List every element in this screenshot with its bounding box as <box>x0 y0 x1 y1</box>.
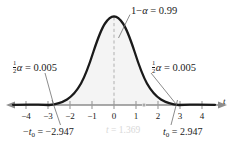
t-subscript: 0 <box>166 131 170 139</box>
right-tail-area-label: 1 2 α = 0.005 <box>152 60 196 74</box>
x-tick-label: 2 <box>151 111 165 121</box>
t-statistic-label: t = 1.369 <box>106 126 140 136</box>
one-half-fraction: 1 2 <box>152 60 155 74</box>
confidence-equals: = <box>150 5 156 16</box>
x-tick-label: 3 <box>173 111 187 121</box>
x-tick-label: 4 <box>195 111 209 121</box>
t-critical-negative-label: −t0 = −2.947 <box>23 127 74 139</box>
x-tick-label: −4 <box>19 111 33 121</box>
tcrit-pos-equals: = <box>172 126 178 137</box>
alpha-symbol: α <box>156 62 162 73</box>
right-alpha-value: 0.005 <box>172 62 196 73</box>
t-distribution-chart: 1−α = 0.99 1 2 α = 0.005 1 2 α = 0.005 −… <box>0 0 235 148</box>
left-tail-leader-line <box>45 73 54 104</box>
tstat-value: 1.369 <box>119 125 140 135</box>
confidence-value: 0.99 <box>159 5 177 16</box>
t-critical-positive-label: t0 = 2.947 <box>163 127 202 139</box>
tcrit-neg-equals: = <box>37 126 43 137</box>
left-tail-area-label: 1 2 α = 0.005 <box>13 60 57 74</box>
right-alpha-equals: = <box>164 62 170 73</box>
left-alpha-equals: = <box>25 62 31 73</box>
x-tick-label: −3 <box>41 111 55 121</box>
left-alpha-value: 0.005 <box>33 62 57 73</box>
tcrit-pos-value: 2.947 <box>180 126 203 137</box>
tcrit-neg-value: −2.947 <box>46 126 74 137</box>
t-subscript: 0 <box>31 131 35 139</box>
tstat-equals: = <box>111 125 116 135</box>
x-tick-label: −2 <box>63 111 77 121</box>
t-symbol: t <box>106 125 109 135</box>
x-tick-label: 0 <box>107 111 121 121</box>
alpha-symbol: α <box>142 5 148 16</box>
confidence-level-label: 1−α = 0.99 <box>131 6 177 17</box>
x-axis-label: t <box>223 96 226 106</box>
alpha-symbol: α <box>17 62 23 73</box>
x-tick-label: −1 <box>85 111 99 121</box>
x-tick-label: 1 <box>129 111 143 121</box>
one-half-fraction: 1 2 <box>13 60 16 74</box>
